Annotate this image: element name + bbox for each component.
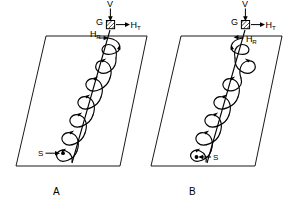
panel-caption-a: A xyxy=(53,186,60,197)
helix-coil-b-3 xyxy=(223,78,241,97)
label-v-b: V xyxy=(242,0,248,9)
helix-axis-a xyxy=(72,30,110,163)
label-g-b: G xyxy=(231,17,238,27)
panel-caption-b: B xyxy=(189,186,196,197)
helix-arrow-b-1 xyxy=(231,45,234,50)
label-ht-sub-a: T xyxy=(137,24,141,31)
label-s-a: S xyxy=(38,149,43,158)
vector-ht-arrowhead-b xyxy=(260,22,265,27)
helix-coil-b-4 xyxy=(214,97,238,115)
plane-parallelogram-b xyxy=(151,36,282,166)
helix-diagram-svg: V H T H R G S A xyxy=(0,0,300,204)
vector-s-arrowhead-b xyxy=(198,155,203,160)
helix-arrow-a-1 xyxy=(117,45,120,50)
vector-ht-arrowhead-a xyxy=(125,22,130,27)
panel-a: V H T H R G S A xyxy=(16,0,147,197)
plane-parallelogram-a xyxy=(16,36,147,166)
label-ht-sub-b: T xyxy=(272,24,276,31)
label-s-b: S xyxy=(213,153,218,162)
start-point-dot-a xyxy=(61,151,65,155)
helix-coil-a-7 xyxy=(57,150,77,162)
helix-coil-b-2 xyxy=(235,58,255,78)
label-hr-sub-a: R xyxy=(96,33,101,40)
helix-coil-a-3 xyxy=(86,78,110,97)
helix-coil-a-4 xyxy=(78,97,101,115)
label-v-a: V xyxy=(107,0,113,9)
label-g-a: G xyxy=(96,17,103,27)
figure-root: V H T H R G S A xyxy=(0,0,300,204)
start-point-dot-b xyxy=(195,155,199,159)
helix-coil-b-6 xyxy=(196,133,220,151)
helix-coil-b-5 xyxy=(205,115,229,133)
panel-b: V H T H R G S B xyxy=(151,0,282,197)
label-hr-sub-b: R xyxy=(252,38,257,45)
helix-coil-a-6 xyxy=(62,133,85,151)
